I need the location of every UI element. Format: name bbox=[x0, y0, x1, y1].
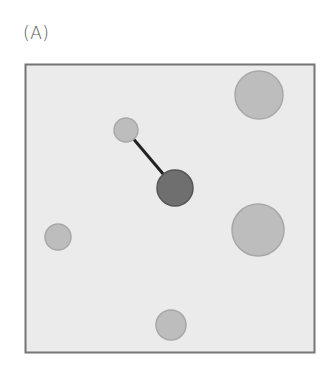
node-bottom bbox=[156, 310, 186, 340]
node-right-large bbox=[232, 204, 284, 256]
node-left bbox=[45, 224, 71, 250]
node-center-dark bbox=[157, 170, 193, 206]
node-top-right bbox=[235, 71, 283, 119]
diagram-canvas bbox=[0, 0, 333, 372]
node-small-upper-left bbox=[114, 118, 138, 142]
